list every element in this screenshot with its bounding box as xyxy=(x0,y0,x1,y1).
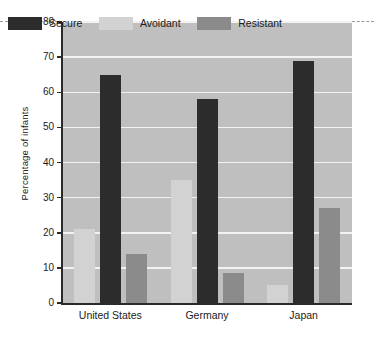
y-axis-line xyxy=(61,22,63,304)
bar-germany-avoidant xyxy=(171,180,192,303)
legend-swatch-resistant xyxy=(197,17,231,30)
bar-japan-avoidant xyxy=(267,285,288,303)
legend-swatch-secure xyxy=(8,17,42,30)
y-tick-label-50: 50 xyxy=(43,122,54,132)
bar-japan-secure xyxy=(293,61,314,303)
legend-label-avoidant: Avoidant xyxy=(140,17,181,29)
bar-united-states-avoidant xyxy=(74,229,95,303)
crop-mark-line-right xyxy=(352,21,374,22)
legend-label-secure: Secure xyxy=(49,17,82,29)
bar-japan-resistant xyxy=(319,208,340,303)
y-tick-label-60: 60 xyxy=(43,87,54,97)
legend-item-secure: Secure xyxy=(8,17,82,30)
bar-germany-resistant xyxy=(223,273,244,303)
chart-legend: Secure Avoidant Resistant xyxy=(8,12,282,34)
bar-chart-figure: Percentage of infants 01020304050607080 … xyxy=(0,0,374,340)
bar-germany-secure xyxy=(197,99,218,303)
legend-swatch-avoidant xyxy=(99,17,133,30)
y-tick-label-20: 20 xyxy=(43,228,54,238)
bar-united-states-secure xyxy=(100,75,121,303)
gridline-70 xyxy=(62,56,352,58)
x-axis-label-united-states: United States xyxy=(79,309,142,321)
x-axis-label-germany: Germany xyxy=(185,309,228,321)
plot-inner xyxy=(62,22,352,303)
x-axis-label-japan: Japan xyxy=(289,309,318,321)
y-axis-title: Percentage of infants xyxy=(19,74,30,234)
legend-item-avoidant: Avoidant xyxy=(99,17,181,30)
y-tick-label-30: 30 xyxy=(43,193,54,203)
y-tick-label-0: 0 xyxy=(48,298,54,308)
y-tick-label-40: 40 xyxy=(43,158,54,168)
plot-area: 01020304050607080 xyxy=(62,22,352,303)
y-tick-label-70: 70 xyxy=(43,52,54,62)
y-tick-label-10: 10 xyxy=(43,263,54,273)
bar-united-states-resistant xyxy=(126,254,147,303)
legend-label-resistant: Resistant xyxy=(238,17,282,29)
legend-item-resistant: Resistant xyxy=(197,17,282,30)
x-axis-line xyxy=(61,303,352,305)
